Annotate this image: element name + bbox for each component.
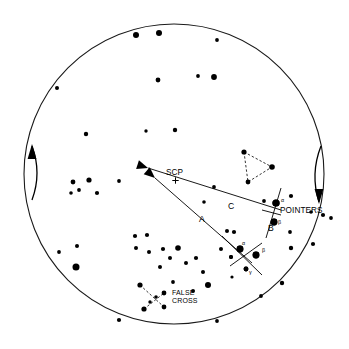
star-point xyxy=(75,244,79,248)
star-point xyxy=(117,318,121,322)
star-point xyxy=(194,256,198,260)
star-point xyxy=(77,188,81,192)
star-point xyxy=(168,256,172,260)
star-point xyxy=(289,246,293,250)
star-point xyxy=(156,30,162,36)
star-point xyxy=(134,246,138,250)
star-point xyxy=(212,185,216,189)
star-point xyxy=(158,265,162,269)
star-point xyxy=(311,242,315,246)
false-cross-star xyxy=(162,291,167,296)
star-point xyxy=(173,128,177,132)
alpha-crux-label: α xyxy=(242,240,245,246)
segment-c-label: C xyxy=(228,201,234,211)
triangulum-australe-asterism xyxy=(241,149,274,184)
pointers-cross-line xyxy=(262,210,281,215)
star-point xyxy=(259,294,263,298)
star-point xyxy=(69,191,73,195)
star-point xyxy=(232,230,236,234)
star-point xyxy=(196,74,200,78)
false-cross-star xyxy=(162,305,167,310)
scp-pointer-lines xyxy=(136,160,281,263)
scp-label: SCP xyxy=(166,168,184,177)
gamma-crux-label: γ xyxy=(249,269,252,275)
star-point xyxy=(253,252,260,259)
sky-chart-canvas: SCP POINTERS FALSE CROSS A B C α β α β γ xyxy=(0,0,349,349)
star-point xyxy=(230,275,233,278)
star-field xyxy=(55,30,333,323)
star-point xyxy=(201,270,205,274)
segment-a-label: A xyxy=(199,214,205,224)
star-point xyxy=(84,132,88,136)
false-cross-star xyxy=(141,306,146,311)
star-point xyxy=(205,282,211,288)
star-point xyxy=(329,216,333,220)
star-point xyxy=(161,247,165,251)
false-cross-asterism xyxy=(137,282,166,311)
star-point xyxy=(171,280,175,284)
arrowhead-A xyxy=(144,167,155,178)
star-point xyxy=(215,38,219,42)
beta-crux-label: β xyxy=(262,247,265,253)
star-point xyxy=(71,180,76,185)
false-cross-label-line1: FALSE xyxy=(172,289,195,296)
star-point xyxy=(229,255,233,259)
star-point xyxy=(156,78,161,83)
false-cross-label-line2: CROSS xyxy=(172,297,198,304)
pointers-label: POINTERS xyxy=(280,206,323,215)
segment-b-label: B xyxy=(268,223,274,233)
star-point xyxy=(95,191,99,195)
star-point xyxy=(184,261,188,265)
star-point xyxy=(175,245,181,251)
star-point xyxy=(147,250,151,254)
star-point xyxy=(262,199,266,203)
star-point xyxy=(237,246,244,253)
star-point xyxy=(73,264,80,271)
false-cross-bar2 xyxy=(144,293,164,309)
star-point xyxy=(55,86,59,90)
star-point xyxy=(280,281,284,285)
scp-cross-marker xyxy=(172,177,178,183)
left-rotation-arrow-head xyxy=(28,144,37,159)
star-point xyxy=(272,199,279,206)
star-point xyxy=(133,32,139,38)
star-point xyxy=(117,179,121,183)
triangle-star xyxy=(269,164,275,170)
star-point xyxy=(57,250,61,254)
triangle-outline xyxy=(244,152,272,182)
star-point xyxy=(148,300,151,303)
star-point xyxy=(86,177,91,182)
alpha-pointers-label: α xyxy=(281,197,284,203)
arrowhead-C xyxy=(136,160,148,169)
star-point xyxy=(215,319,219,323)
star-point xyxy=(225,229,229,233)
star-point xyxy=(145,233,149,237)
star-point xyxy=(211,74,217,80)
star-point xyxy=(289,194,293,198)
star-point xyxy=(133,234,137,238)
star-point xyxy=(202,200,206,204)
false-cross-bar1 xyxy=(140,285,164,307)
triangle-star xyxy=(241,149,246,154)
triangle-star xyxy=(246,180,251,185)
star-point xyxy=(244,267,249,272)
star-chart-figure: SCP POINTERS FALSE CROSS A B C α β α β γ xyxy=(0,0,349,349)
false-cross-star xyxy=(137,282,142,287)
star-point xyxy=(144,129,147,132)
star-point xyxy=(219,247,223,251)
false-cross-star xyxy=(154,295,158,299)
beta-pointers-label: β xyxy=(278,219,281,225)
star-point xyxy=(288,230,292,234)
